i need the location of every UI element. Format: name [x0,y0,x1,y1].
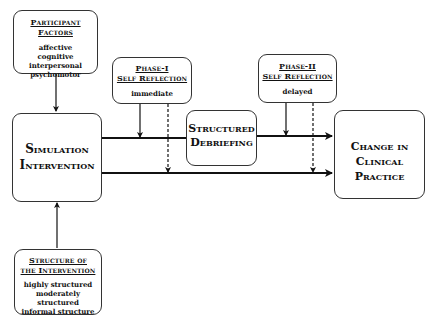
simulation-box: Simulation Intervention [12,113,102,202]
structure-title-2: the Intervention [15,265,101,275]
phase2-title-1: Phase-II [259,61,336,71]
structure-item: informal structure [15,307,101,316]
outcome-box: Change in Clinical Practice [334,110,425,199]
phase1-title-1: Phase-I [113,63,191,73]
phase2-box: Phase-II Self Reflection delayed [258,54,337,103]
debriefing-label-1: Structured [187,122,256,136]
phase2-timing: delayed [259,87,336,96]
structure-item: highly structured [15,280,101,289]
participant-factors-title: Participant Factors [14,17,97,37]
debriefing-box: Structured Debriefing [186,110,257,166]
factor-item: interpersonal [14,61,97,70]
simulation-label-2: Intervention [13,157,101,173]
structure-title-1: Structure of [15,255,101,265]
phase1-timing: immediate [113,89,191,98]
factor-item: affective [14,43,97,52]
participant-factors-box: Participant Factors affective cognitive … [13,10,98,74]
phase1-title-2: Self Reflection [113,73,191,83]
phase1-box: Phase-I Self Reflection immediate [112,57,192,104]
simulation-label-1: Simulation [13,141,101,157]
factor-item: cognitive [14,52,97,61]
outcome-label-2: Clinical Practice [335,154,424,184]
structure-box: Structure of the Intervention highly str… [14,249,102,315]
phase2-title-2: Self Reflection [259,71,336,81]
factor-item: psychomotor [14,70,97,79]
debriefing-label-2: Debriefing [187,136,256,150]
outcome-label-1: Change in [335,139,424,154]
structure-item: moderately structured [15,289,101,307]
